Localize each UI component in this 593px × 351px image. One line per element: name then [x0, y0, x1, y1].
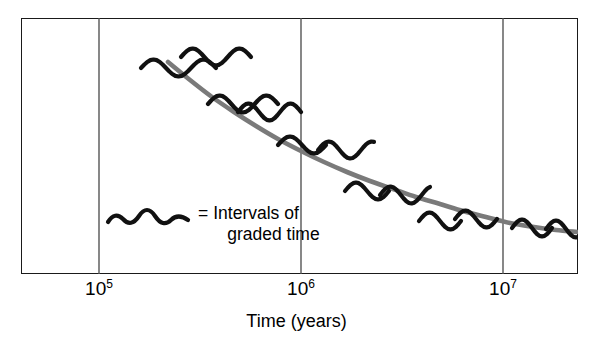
tick-mantissa: 10	[85, 278, 106, 299]
tick-exponent: 7	[510, 277, 517, 291]
tick-label-2: 107	[489, 278, 517, 300]
tick-label-0: 105	[85, 278, 113, 300]
legend-line-2: graded time	[213, 224, 319, 245]
legend: = Intervals of graded time	[104, 203, 320, 245]
x-axis-title: Time (years)	[0, 310, 593, 332]
figure-root: = Intervals of graded time 105106107 Tim…	[0, 0, 593, 351]
tick-label-1: 106	[287, 278, 315, 300]
tick-exponent: 5	[106, 277, 113, 291]
squiggle-6	[318, 142, 374, 159]
legend-equals-sign: =	[198, 203, 208, 224]
legend-text: Intervals of graded time	[213, 203, 319, 245]
legend-line-1: Intervals of	[213, 203, 319, 224]
squiggle-2	[181, 49, 251, 66]
tick-exponent: 6	[308, 277, 315, 291]
tick-mantissa: 10	[287, 278, 308, 299]
wavy-squiggle-icon	[104, 205, 192, 235]
tick-mantissa: 10	[489, 278, 510, 299]
